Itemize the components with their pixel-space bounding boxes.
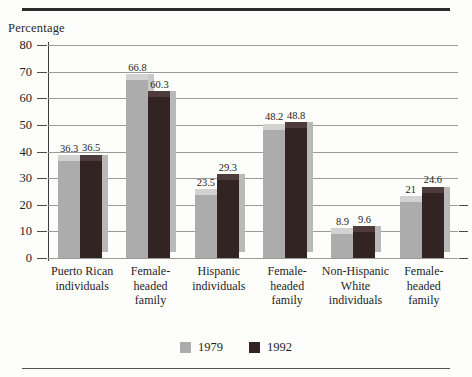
bar-1979-4[interactable]: 8.9 bbox=[331, 234, 353, 258]
bar-value-label: 60.3 bbox=[150, 80, 168, 91]
bar-top bbox=[195, 189, 217, 195]
y-tick-label-30: 30 bbox=[20, 171, 33, 186]
top-divider-rule bbox=[22, 8, 450, 11]
bar-value-label: 21 bbox=[406, 185, 417, 196]
x-axis-label: Female-headedfamily bbox=[377, 264, 470, 308]
bar-top bbox=[353, 226, 375, 232]
bar-face bbox=[285, 128, 307, 258]
bar-1979-5[interactable]: 21 bbox=[400, 202, 422, 258]
y-tick-label-40: 40 bbox=[20, 144, 33, 159]
chart-legend: 19791992 bbox=[0, 340, 472, 355]
bar-value-label: 9.6 bbox=[358, 215, 371, 226]
bar-face bbox=[148, 97, 170, 258]
bar-value-label: 48.8 bbox=[287, 111, 305, 122]
bar-top bbox=[331, 228, 353, 234]
bar-series-container: 36.336.566.860.323.529.348.248.88.99.621… bbox=[48, 45, 458, 258]
bar-value-label: 66.8 bbox=[128, 63, 146, 74]
y-tick-label-10: 10 bbox=[20, 224, 33, 239]
y-tick-right-0 bbox=[459, 258, 468, 259]
bar-side bbox=[239, 174, 245, 252]
bottom-divider-rule bbox=[22, 368, 450, 369]
bar-1979-2[interactable]: 23.5 bbox=[195, 195, 217, 258]
bar-1979-0[interactable]: 36.3 bbox=[58, 161, 80, 258]
bar-group: 36.336.5 bbox=[48, 45, 116, 258]
bar-face bbox=[58, 161, 80, 258]
x-axis-label-line: Female- bbox=[377, 264, 470, 279]
bar-1992-1[interactable]: 60.3 bbox=[148, 97, 170, 258]
bar-top bbox=[263, 124, 285, 130]
y-tick-40 bbox=[37, 152, 47, 153]
bar-top bbox=[126, 74, 148, 80]
bar-1992-0[interactable]: 36.5 bbox=[80, 161, 102, 258]
bar-face bbox=[353, 232, 375, 258]
bar-side bbox=[170, 91, 176, 252]
legend-label: 1979 bbox=[198, 340, 223, 355]
y-tick-label-60: 60 bbox=[20, 91, 33, 106]
bar-value-label: 23.5 bbox=[197, 178, 215, 189]
y-tick-80 bbox=[37, 45, 47, 46]
bar-group: 2124.6 bbox=[390, 45, 458, 258]
y-tick-70 bbox=[37, 72, 47, 73]
bar-value-label: 36.5 bbox=[82, 143, 100, 154]
legend-label: 1992 bbox=[267, 340, 292, 355]
y-tick-label-80: 80 bbox=[20, 38, 33, 53]
bar-1992-3[interactable]: 48.8 bbox=[285, 128, 307, 258]
y-tick-0 bbox=[37, 258, 47, 259]
bar-face bbox=[195, 195, 217, 258]
bar-face bbox=[217, 180, 239, 258]
bar-1979-1[interactable]: 66.8 bbox=[126, 80, 148, 258]
bar-top bbox=[58, 155, 80, 161]
y-tick-label-20: 20 bbox=[20, 197, 33, 212]
bar-top bbox=[285, 122, 307, 128]
x-axis-label-line: family bbox=[377, 293, 470, 308]
y-tick-20 bbox=[37, 205, 47, 206]
bar-1992-5[interactable]: 24.6 bbox=[422, 193, 444, 258]
y-tick-right-10 bbox=[459, 231, 468, 232]
bar-value-label: 8.9 bbox=[336, 217, 349, 228]
x-axis-label-line: headed bbox=[377, 279, 470, 294]
legend-swatch-icon bbox=[249, 342, 260, 353]
bar-top bbox=[217, 174, 239, 180]
y-tick-50 bbox=[37, 125, 47, 126]
y-tick-60 bbox=[37, 98, 47, 99]
bar-face bbox=[263, 130, 285, 258]
bar-top bbox=[148, 91, 170, 97]
y-tick-10 bbox=[37, 231, 47, 232]
bar-value-label: 48.2 bbox=[265, 112, 283, 123]
y-tick-right-20 bbox=[459, 205, 468, 206]
bar-face bbox=[400, 202, 422, 258]
bar-top bbox=[400, 196, 422, 202]
bar-side bbox=[102, 155, 108, 252]
bar-top bbox=[80, 155, 102, 161]
bar-group: 66.860.3 bbox=[116, 45, 184, 258]
bar-group: 23.529.3 bbox=[185, 45, 253, 258]
bar-face bbox=[422, 193, 444, 258]
bar-side bbox=[375, 226, 381, 252]
legend-swatch-icon bbox=[180, 342, 191, 353]
bar-value-label: 24.6 bbox=[424, 175, 442, 186]
bar-group: 48.248.8 bbox=[253, 45, 321, 258]
legend-item-1992[interactable]: 1992 bbox=[249, 340, 292, 355]
y-tick-label-50: 50 bbox=[20, 117, 33, 132]
bar-group: 8.99.6 bbox=[321, 45, 389, 258]
bar-face bbox=[80, 161, 102, 258]
x-axis-label-line: family bbox=[104, 293, 197, 308]
y-tick-label-70: 70 bbox=[20, 64, 33, 79]
legend-item-1979[interactable]: 1979 bbox=[180, 340, 223, 355]
bar-face bbox=[126, 80, 148, 258]
bar-1979-3[interactable]: 48.2 bbox=[263, 130, 285, 258]
gridline-0 bbox=[48, 258, 458, 259]
bar-side bbox=[307, 122, 313, 252]
bar-1992-2[interactable]: 29.3 bbox=[217, 180, 239, 258]
bar-side bbox=[444, 187, 450, 252]
x-axis-labels: Puerto RicanindividualsFemale-headedfami… bbox=[48, 264, 458, 326]
y-tick-label-0: 0 bbox=[26, 251, 32, 266]
y-axis-title: Percentage bbox=[8, 21, 65, 36]
bar-1992-4[interactable]: 9.6 bbox=[353, 232, 375, 258]
y-tick-30 bbox=[37, 178, 47, 179]
bar-value-label: 29.3 bbox=[219, 163, 237, 174]
bar-value-label: 36.3 bbox=[60, 144, 78, 155]
bar-face bbox=[331, 234, 353, 258]
bar-top bbox=[422, 187, 444, 193]
